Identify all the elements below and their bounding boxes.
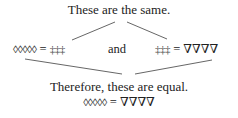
diamond-symbols: ◊◊◊◊◊ xyxy=(83,97,106,108)
double-dagger-symbols: ‡‡‡ xyxy=(155,43,170,55)
left-equation: ◊◊◊◊◊ = ‡‡‡ xyxy=(13,43,65,56)
right-equation-to-conclusion-line xyxy=(135,60,212,74)
equals-sign: = xyxy=(36,42,49,56)
diagram-title: These are the same. xyxy=(0,3,238,16)
equals-sign: = xyxy=(170,42,183,56)
conclusion-text: Therefore, these are equal. xyxy=(0,80,238,93)
nabla-symbols: ∇∇∇∇ xyxy=(183,42,218,56)
title-to-left-equation-line xyxy=(72,22,115,40)
equals-sign: = xyxy=(107,95,120,109)
right-equation: ‡‡‡ = ∇∇∇∇ xyxy=(155,43,218,56)
and-connector: and xyxy=(108,43,126,56)
diamond-symbols: ◊◊◊◊◊ xyxy=(13,44,36,55)
result-equation: ◊◊◊◊◊ = ∇∇∇∇ xyxy=(0,96,238,109)
left-equation-to-conclusion-line xyxy=(25,59,122,74)
transitive-equality-diagram: These are the same. ◊◊◊◊◊ = ‡‡‡ and ‡‡‡ … xyxy=(0,0,238,118)
double-dagger-symbols: ‡‡‡ xyxy=(50,43,65,55)
nabla-symbols: ∇∇∇∇ xyxy=(120,95,155,109)
title-to-right-equation-line xyxy=(127,22,167,39)
